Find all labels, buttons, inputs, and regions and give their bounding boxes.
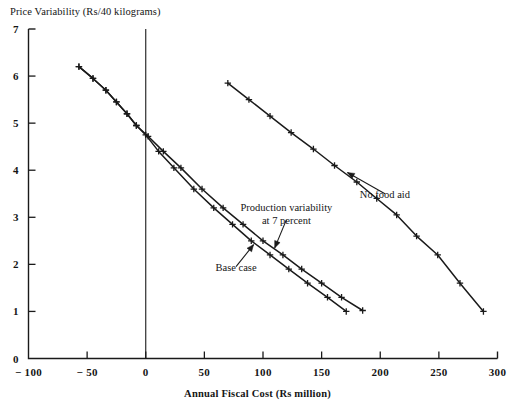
series-line bbox=[228, 83, 484, 311]
x-tick-label: 200 bbox=[372, 366, 389, 378]
y-tick-label: 5 bbox=[13, 117, 19, 129]
series-2 bbox=[76, 63, 366, 313]
x-tick-label: 100 bbox=[254, 366, 271, 378]
x-tick-label: − 100 bbox=[15, 366, 42, 378]
page-bleed-artifact: — —— ——— —— ———— —— ——— — bbox=[0, 0, 515, 5]
arrow-head bbox=[247, 245, 254, 252]
y-tick-label: 2 bbox=[13, 258, 19, 270]
y-tick-label: 1 bbox=[13, 305, 19, 317]
series-line bbox=[79, 67, 346, 312]
annotation-line: at 7 percent bbox=[241, 214, 333, 227]
x-tick-label: 50 bbox=[199, 366, 211, 378]
no-food-aid-label: No food aid bbox=[360, 188, 410, 201]
series-line bbox=[79, 67, 363, 311]
x-tick-label: − 50 bbox=[77, 366, 98, 378]
axis-spines bbox=[29, 29, 498, 359]
x-tick-label: 300 bbox=[489, 366, 506, 378]
production-variability-label: Production variabilityat 7 percent bbox=[241, 201, 333, 227]
annotation-line: Base case bbox=[215, 261, 256, 274]
series-3 bbox=[225, 80, 487, 315]
x-axis-label: Annual Fiscal Cost (Rs million) bbox=[0, 388, 515, 399]
x-tick-label: 0 bbox=[143, 366, 149, 378]
annotation-line: No food aid bbox=[360, 188, 410, 201]
chart-figure: — —— ——— —— ———— —— ——— — Price Variabil… bbox=[0, 0, 515, 411]
y-tick-label: 4 bbox=[13, 164, 19, 176]
x-tick-label: 150 bbox=[313, 366, 330, 378]
y-tick-label: 6 bbox=[13, 70, 19, 82]
y-tick-label: 7 bbox=[13, 23, 19, 35]
y-tick-label: 0 bbox=[13, 353, 19, 365]
y-axis-label: Price Variability (Rs/40 kilograms) bbox=[10, 6, 161, 17]
annotation-line: Production variability bbox=[241, 201, 333, 214]
base-case-label: Base case bbox=[215, 261, 256, 274]
x-tick-label: 250 bbox=[430, 366, 447, 378]
arrow-head bbox=[275, 240, 280, 247]
y-tick-label: 3 bbox=[13, 211, 19, 223]
